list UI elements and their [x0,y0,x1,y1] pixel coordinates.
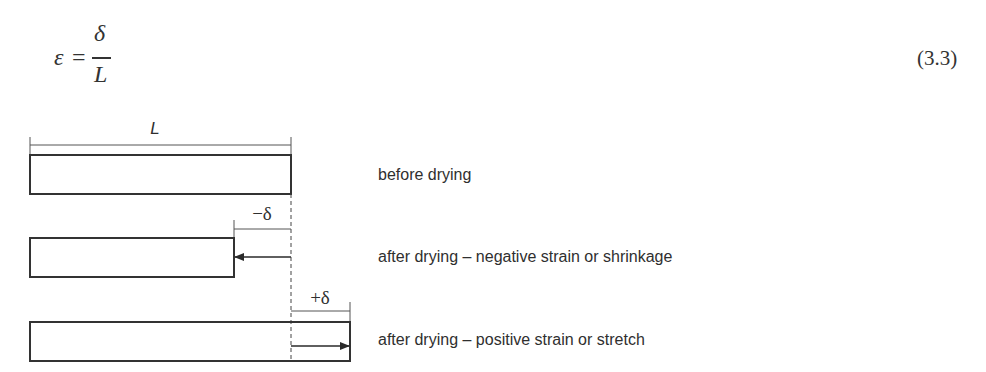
stretch-dimension: +δ [291,287,350,322]
state-label-stretch: after drying – positive strain or stretc… [378,331,645,349]
stretch-dimension-label: +δ [310,287,330,308]
specimen-after-stretch [30,322,350,361]
drying-strain-diagram: L −δ +δ [0,0,986,372]
state-label-shrinkage: after drying – negative strain or shrink… [378,248,672,266]
shrinkage-dimension-label: −δ [252,203,272,224]
length-dimension-label: L [150,119,159,138]
shrinkage-dimension: −δ [234,203,291,238]
specimen-before-drying [30,155,291,194]
state-label-before-drying: before drying [378,166,471,184]
specimen-after-shrinkage [30,238,234,277]
length-dimension: L [30,119,291,155]
